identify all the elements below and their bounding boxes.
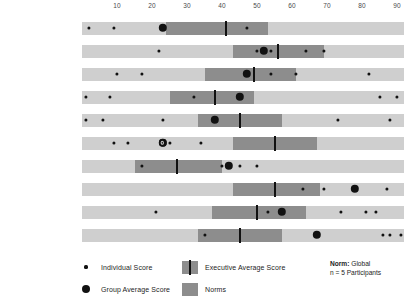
norms-note-participants: n = 5 Participants	[330, 268, 410, 277]
executive-average-line	[274, 136, 276, 151]
norms-band-icon	[182, 283, 198, 296]
axis-tick-10: 10	[113, 2, 121, 9]
x-axis: 102030405060708090	[0, 0, 410, 16]
row-track-area	[0, 177, 410, 200]
legend-item-group-average-score: Group Average Score	[78, 278, 170, 300]
row-track-area	[0, 223, 410, 246]
legend-label-individual-score: Individual Score	[101, 264, 152, 271]
executive-average-line	[239, 113, 241, 128]
value-profile-chart: 102030405060708090 Recognition26Power57H…	[0, 0, 410, 303]
legend-column-2: Executive Average Score Norms	[182, 256, 285, 300]
executive-average-line	[274, 182, 276, 197]
norm-band	[135, 160, 223, 173]
axis-tick-30: 30	[183, 2, 191, 9]
chart-row: Tradition22	[0, 131, 410, 154]
axis-tick-60: 60	[288, 2, 296, 9]
executive-average-line-icon	[182, 261, 198, 274]
row-track-area	[0, 131, 410, 154]
chart-rows: Recognition26Power57Hedonism49Altruistic…	[0, 16, 410, 246]
individual-score-dot-icon	[78, 261, 94, 274]
legend-label-norms: Norms	[205, 286, 226, 293]
row-track-area	[0, 62, 410, 85]
executive-average-line	[214, 90, 216, 105]
row-track-area	[0, 200, 410, 223]
chart-row: Aesthetics69	[0, 200, 410, 223]
executive-average-line	[176, 159, 178, 174]
legend-column-1: Individual Score Group Average Score	[78, 256, 170, 300]
chart-row: Commerce83	[0, 177, 410, 200]
chart-row: Hedonism49	[0, 62, 410, 85]
row-track-area	[0, 16, 410, 39]
axis-tick-90: 90	[393, 2, 401, 9]
chart-row: Recognition26	[0, 16, 410, 39]
axis-tick-80: 80	[358, 2, 366, 9]
row-track	[82, 160, 404, 173]
norm-band	[212, 206, 307, 219]
axis-tick-20: 20	[148, 2, 156, 9]
norm-band	[233, 183, 321, 196]
row-track-area	[0, 85, 410, 108]
norms-note-label: Norm:	[330, 260, 349, 267]
axis-tick-70: 70	[323, 2, 331, 9]
norm-band	[166, 22, 268, 35]
axis-tick-40: 40	[218, 2, 226, 9]
legend-label-executive-average-score: Executive Average Score	[205, 264, 285, 271]
chart-row: Affiliation41	[0, 108, 410, 131]
axis-tick-50: 50	[253, 2, 261, 9]
executive-average-line	[256, 205, 258, 220]
executive-average-line	[225, 21, 227, 36]
norms-note: Norm: Global n = 5 Participants	[330, 259, 410, 277]
chart-row: Power57	[0, 39, 410, 62]
chart-row: Altruistic47	[0, 85, 410, 108]
legend-item-norms: Norms	[182, 278, 285, 300]
executive-average-line	[239, 228, 241, 243]
chart-row: Science74	[0, 223, 410, 246]
row-track-area	[0, 108, 410, 131]
row-track-area	[0, 154, 410, 177]
legend-item-individual-score: Individual Score	[78, 256, 170, 278]
norms-note-value: Global	[349, 260, 370, 267]
legend-label-group-average-score: Group Average Score	[101, 286, 170, 293]
row-track-area	[0, 39, 410, 62]
executive-average-line	[277, 44, 279, 59]
legend-item-executive-average-score: Executive Average Score	[182, 256, 285, 278]
group-average-dot-icon	[78, 283, 94, 296]
chart-row: Security42	[0, 154, 410, 177]
executive-average-line	[253, 67, 255, 82]
